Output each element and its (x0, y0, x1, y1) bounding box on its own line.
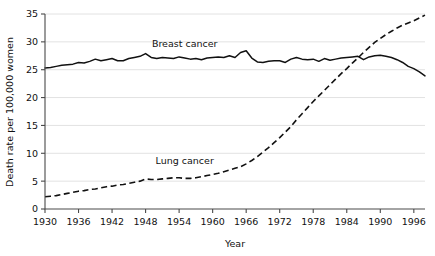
series-line-1 (45, 51, 425, 76)
x-tick-label: 1966 (234, 216, 258, 227)
axes (41, 14, 425, 213)
tick-labels: 0510152025303519301936194219481954196019… (26, 8, 426, 227)
y-axis-title: Death rate per 100,000 women (4, 37, 15, 187)
x-tick-label: 1948 (133, 216, 157, 227)
y-tick-label: 15 (26, 120, 38, 131)
y-tick-label: 10 (26, 148, 38, 159)
x-tick-label: 1942 (100, 216, 124, 227)
x-tick-label: 1990 (368, 216, 392, 227)
cancer-death-rate-line-chart: 0510152025303519301936194219481954196019… (0, 0, 435, 256)
x-tick-label: 1984 (335, 216, 359, 227)
y-tick-label: 25 (26, 64, 38, 75)
x-tick-label: 1936 (66, 216, 90, 227)
x-tick-label: 1978 (301, 216, 325, 227)
series-label-1: Breast cancer (152, 38, 218, 49)
series-label-2: Lung cancer (156, 155, 214, 166)
gridlines (45, 14, 425, 181)
x-axis-title: Year (224, 238, 245, 249)
y-tick-label: 0 (32, 203, 38, 214)
y-tick-label: 35 (26, 8, 38, 19)
x-tick-label: 1930 (33, 216, 57, 227)
axis-lines (45, 14, 425, 209)
y-tick-label: 5 (32, 176, 38, 187)
x-tick-label: 1960 (201, 216, 225, 227)
y-tick-label: 20 (26, 92, 38, 103)
chart-container: 0510152025303519301936194219481954196019… (0, 0, 435, 256)
x-tick-label: 1972 (268, 216, 292, 227)
y-tick-label: 30 (26, 36, 38, 47)
x-tick-label: 1954 (167, 216, 191, 227)
x-tick-label: 1996 (402, 216, 426, 227)
